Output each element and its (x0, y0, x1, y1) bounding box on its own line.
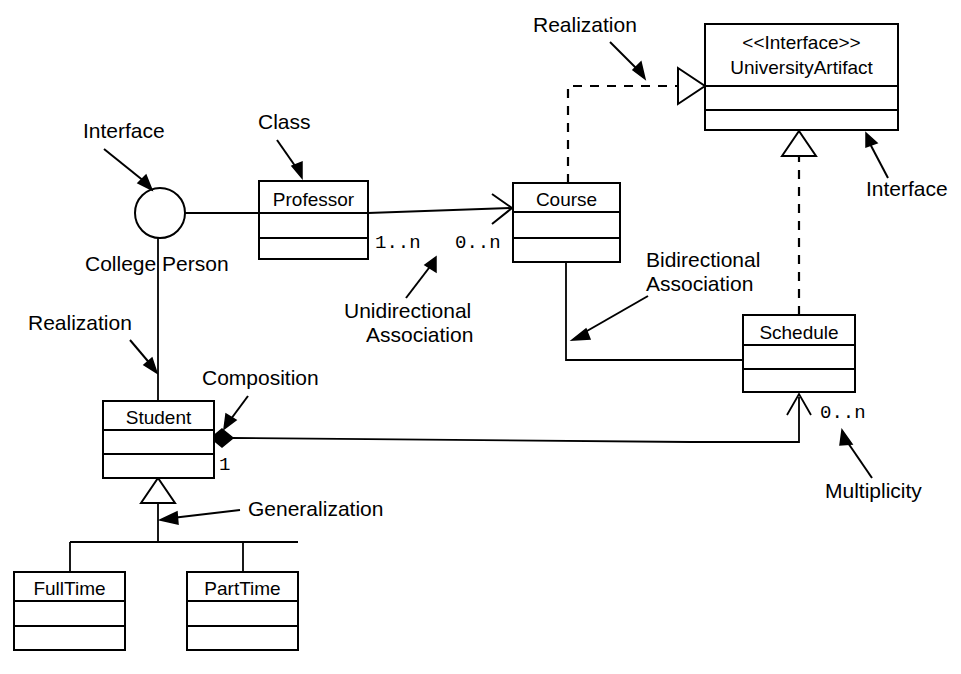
annotation-generalization: Generalization (160, 497, 383, 524)
class-name-student: Student (126, 407, 192, 428)
annotation-label-interface-left: Interface (83, 119, 165, 142)
annotation-realization-left: Realization (28, 311, 157, 373)
annotation-label-realization-left: Realization (28, 311, 132, 334)
annotation-label-bidirectional-line2: Association (646, 272, 753, 295)
annotation-label-interface-right: Interface (866, 177, 948, 200)
connector-schedule-universityartifact (782, 131, 816, 315)
annotation-multiplicity: Multiplicity (825, 430, 922, 502)
annotation-class: Class (258, 110, 311, 178)
class-name-schedule: Schedule (759, 322, 838, 343)
class-name-university-artifact: UniversityArtifact (730, 57, 873, 78)
annotation-unidirectional-association: Unidirectional Association (344, 257, 473, 346)
connector-course-universityartifact (568, 68, 705, 183)
class-box-schedule[interactable]: Schedule (743, 315, 855, 392)
class-name-course: Course (536, 189, 597, 210)
class-box-fulltime[interactable]: FullTime (14, 572, 125, 650)
class-box-parttime[interactable]: PartTime (187, 572, 298, 650)
multiplicity-professor-course-target: 0..n (455, 232, 501, 254)
class-box-course[interactable]: Course (513, 183, 620, 262)
class-box-professor[interactable]: Professor (259, 181, 368, 259)
annotation-label-class: Class (258, 110, 311, 133)
diagram-svg: Professor Course <<Interface>> Universit… (0, 0, 961, 674)
interface-lollipop-label: College Person (85, 252, 229, 275)
annotation-label-composition: Composition (202, 366, 319, 389)
annotation-label-realization-top: Realization (533, 13, 637, 36)
interface-lollipop-college-person[interactable] (135, 188, 185, 238)
annotation-interface-right: Interface (866, 133, 948, 200)
annotation-realization-top: Realization (533, 13, 645, 79)
multiplicity-professor-course-source: 1..n (375, 232, 421, 254)
class-box-university-artifact[interactable]: <<Interface>> UniversityArtifact (705, 24, 898, 130)
uml-diagram-canvas: Professor Course <<Interface>> Universit… (0, 0, 961, 674)
class-stereotype-university-artifact: <<Interface>> (742, 32, 860, 53)
annotation-label-multiplicity: Multiplicity (825, 479, 922, 502)
multiplicity-student-composition: 1 (219, 454, 230, 476)
class-name-fulltime: FullTime (33, 578, 105, 599)
multiplicity-schedule-composition: 0..n (820, 402, 866, 424)
connector-student-schedule (211, 394, 811, 447)
class-box-student[interactable]: Student (103, 401, 214, 478)
class-name-professor: Professor (273, 189, 355, 210)
class-name-parttime: PartTime (204, 578, 280, 599)
annotation-label-generalization: Generalization (248, 497, 383, 520)
annotation-interface-left: Interface (83, 119, 165, 190)
annotation-label-unidirectional-line1: Unidirectional (344, 299, 471, 322)
connector-professor-course (368, 194, 512, 224)
annotation-label-unidirectional-line2: Association (366, 323, 473, 346)
annotation-label-bidirectional-line1: Bidirectional (646, 248, 760, 271)
connector-student-subclasses (70, 478, 298, 572)
annotation-composition: Composition (202, 366, 319, 429)
